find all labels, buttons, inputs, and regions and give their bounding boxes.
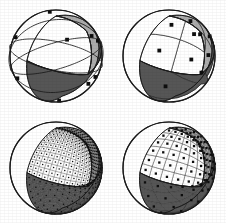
cell-marker: [50, 178, 52, 180]
cell-marker: [96, 177, 98, 179]
cell-marker: [192, 188, 194, 190]
cell-marker: [43, 204, 45, 206]
cell-marker: [70, 145, 72, 147]
cell-marker: [62, 132, 64, 134]
cell-marker: [90, 147, 92, 149]
cell-marker: [62, 175, 64, 177]
cell-marker: [166, 142, 168, 144]
cell-marker: [80, 191, 82, 193]
cell-marker: [71, 142, 73, 144]
cell-marker: [203, 141, 205, 143]
cell-marker: [210, 173, 212, 175]
cell-marker: [74, 194, 76, 196]
cell-marker: [70, 132, 72, 134]
cell-marker: [88, 141, 90, 143]
cell-marker: [87, 144, 89, 146]
cell-marker: [71, 128, 73, 130]
cell-marker: [193, 136, 195, 138]
cell-marker: [46, 170, 48, 172]
cell-marker: [194, 139, 196, 141]
cell-marker: [204, 171, 206, 173]
cell-marker: [63, 152, 65, 154]
cell-marker: [91, 152, 93, 154]
cell-marker: [89, 138, 91, 140]
cell-marker: [87, 180, 89, 182]
cell-marker: [72, 131, 74, 133]
cell-marker: [90, 178, 92, 180]
cell-marker: [61, 142, 63, 144]
cell-marker: [62, 193, 64, 195]
cell-marker: [81, 130, 83, 132]
sphere-mesh-figure: [0, 0, 226, 223]
cell-marker: [82, 155, 84, 157]
cell-marker: [76, 167, 78, 169]
cell-marker: [181, 185, 183, 187]
cell-marker: [197, 181, 199, 183]
cell-marker: [90, 141, 92, 143]
cell-marker: [66, 133, 68, 135]
cell-marker: [201, 189, 203, 191]
fine-mesh-sphere: [0, 112, 113, 223]
cell-marker: [92, 161, 94, 163]
cell-marker: [67, 130, 69, 132]
cell-marker: [79, 196, 81, 198]
cell-marker: [193, 144, 195, 146]
cell-marker: [65, 128, 67, 130]
cell-marker: [192, 160, 194, 162]
cell-marker: [75, 140, 77, 142]
cell-marker: [39, 174, 41, 176]
cell-marker: [74, 147, 76, 149]
cell-marker: [69, 129, 71, 131]
cell-marker: [97, 167, 99, 169]
cell-marker: [46, 136, 48, 138]
cell-marker: [49, 200, 51, 202]
cell-marker: [96, 170, 98, 172]
cell-marker: [55, 145, 57, 147]
cell-marker: [85, 166, 87, 168]
cell-marker: [207, 165, 209, 167]
cell-marker: [81, 164, 83, 166]
cell-marker: [81, 136, 83, 138]
coarse-partition-sphere-svg: [0, 0, 113, 111]
cell-marker: [76, 202, 78, 204]
cell-marker: [88, 176, 90, 178]
cell-marker: [166, 175, 168, 177]
cell-marker: [207, 180, 209, 182]
cell-marker: [60, 162, 62, 164]
cell-marker: [67, 158, 69, 160]
cell-marker: [75, 172, 77, 174]
cell-marker: [92, 176, 94, 178]
cell-marker: [57, 173, 59, 175]
cell-marker: [92, 183, 94, 185]
cell-marker: [168, 129, 170, 131]
cell-marker: [85, 136, 87, 138]
cell-marker: [86, 141, 88, 143]
cell-marker: [211, 166, 213, 168]
cell-marker: [202, 146, 204, 148]
cell-marker: [34, 179, 36, 181]
cell-marker: [175, 127, 177, 129]
cell-marker: [35, 186, 37, 188]
cell-marker: [82, 148, 84, 150]
cell-marker: [63, 203, 64, 205]
cell-marker: [67, 206, 69, 208]
cell-marker: [94, 147, 96, 149]
cell-marker: [62, 128, 64, 130]
cell-marker: [55, 128, 57, 130]
cell-marker: [89, 168, 91, 170]
cell-marker: [29, 170, 31, 172]
cell-marker: [206, 152, 208, 154]
cell-marker: [93, 144, 95, 146]
cell-marker: [55, 137, 57, 139]
cell-marker: [200, 164, 202, 166]
cell-marker: [181, 132, 183, 134]
cell-marker: [94, 159, 96, 161]
cell-marker: [205, 147, 207, 149]
cell-marker: [96, 160, 98, 162]
cell-marker: [52, 140, 54, 142]
cell-marker: [147, 194, 149, 196]
cell-marker: [192, 138, 194, 140]
cell-marker: [189, 131, 191, 133]
cell-marker: [82, 133, 84, 135]
cell-marker: [69, 149, 71, 151]
